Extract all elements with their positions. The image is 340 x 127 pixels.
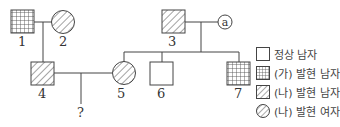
individual-6-male-normal [150, 62, 173, 85]
legend-label: 정상 남자 [274, 46, 318, 62]
label-unknown-offspring: ? [77, 105, 84, 120]
label-2: 2 [59, 34, 67, 49]
label-1: 1 [18, 34, 26, 49]
square-hatch-icon [256, 85, 270, 99]
legend-item-trait-ga-male: (가) 발현 남자 [256, 63, 340, 82]
individual-3-male-trait-na [162, 10, 185, 33]
legend-item-trait-na-female: (나) 발현 여자 [256, 101, 340, 120]
label-a: a [222, 16, 229, 29]
legend-item-trait-na-male: (나) 발현 남자 [256, 82, 340, 101]
square-empty-icon [256, 47, 270, 61]
individual-2-female-trait-na [52, 11, 75, 34]
individual-5-female-trait-na [113, 62, 136, 85]
label-3: 3 [168, 34, 176, 49]
circle-hatch-icon [256, 104, 270, 118]
legend-label: (가) 발현 남자 [274, 65, 340, 81]
label-7: 7 [234, 86, 242, 101]
label-4: 4 [38, 86, 46, 101]
legend-label: (나) 발현 남자 [274, 84, 340, 100]
label-6: 6 [157, 86, 165, 101]
individual-4-male-trait-na [31, 62, 54, 85]
legend: 정상 남자 (가) 발현 남자 (나) 발현 남자 (나) 발현 여자 [256, 44, 340, 120]
legend-item-normal-male: 정상 남자 [256, 44, 340, 63]
square-grid-icon [256, 66, 270, 80]
label-5: 5 [117, 86, 125, 101]
individual-1-male-trait-ga [11, 10, 34, 33]
legend-label: (나) 발현 여자 [274, 103, 340, 119]
individual-7-male-trait-ga [227, 62, 250, 85]
